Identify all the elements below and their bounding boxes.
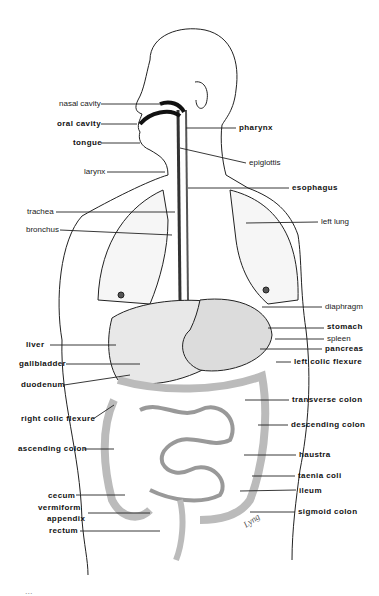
label-epiglottis: epiglottis (249, 158, 281, 168)
label-cecum: cecum (48, 491, 75, 501)
label-sigmoid-colon: sigmoid colon (298, 507, 357, 517)
label-nasal-cavity: nasal cavity (59, 99, 101, 109)
label-esophagus: esophagus (292, 183, 338, 193)
label-appendix: appendix (47, 514, 85, 524)
label-ileum: ileum (299, 486, 322, 496)
label-diaphragm: diaphragm (325, 302, 363, 312)
label-gallbladder: gallbladder (19, 359, 66, 369)
label-vermiform: vermiform (38, 503, 81, 513)
label-left-colic-flexure: left colic flexure (294, 357, 362, 367)
left-lung-outline-icon (230, 190, 298, 304)
label-trachea: trachea (27, 207, 54, 217)
label-ascending-colon: ascending colon (18, 444, 87, 454)
label-oral-cavity: oral cavity (57, 119, 101, 129)
label-right-colic-flexure: right colic flexure (21, 414, 95, 424)
label-liver: liver (26, 340, 44, 350)
label-haustra: haustra (299, 450, 331, 460)
caption-partial: ... (25, 586, 33, 596)
leader-line (180, 148, 246, 163)
label-larynx: larynx (84, 167, 105, 177)
label-pancreas: pancreas (325, 344, 363, 354)
right-lung-outline-icon (98, 190, 168, 304)
label-duodenum: duodenum (21, 380, 65, 390)
label-bronchus: bronchus (26, 225, 59, 235)
label-descending-colon: descending colon (291, 420, 365, 430)
leader-line (240, 490, 296, 491)
label-tongue: tongue (73, 138, 102, 148)
label-transverse-colon: transverse colon (292, 395, 362, 405)
artist-signature: Lyng (241, 511, 262, 530)
label-pharynx: pharynx (239, 123, 273, 133)
label-left-lung: left lung (321, 217, 349, 227)
small-intestine-shape-icon (140, 407, 233, 500)
label-spleen: spleen (327, 334, 351, 344)
label-rectum: rectum (49, 526, 78, 536)
label-taenia-coli: taenia coli (298, 471, 342, 481)
label-stomach: stomach (327, 322, 363, 332)
